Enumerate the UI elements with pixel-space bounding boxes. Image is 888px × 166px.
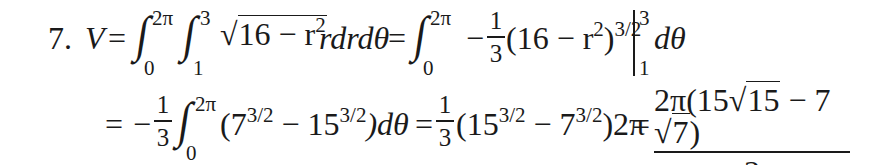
radicand: 16 − r [239,16,316,52]
term-15: (15 [456,106,499,142]
numerator: 1 [490,8,503,33]
radicand: 7 [672,113,690,150]
exponent: 3/2 [615,17,642,41]
close-paren: ) [604,20,615,56]
denominator: 3 [744,156,760,166]
integrand-expression: (73/2 − 153/2)dθ [220,108,409,140]
numerator: 1 [439,92,452,117]
final-result-fraction: 2π(15√15 − 7√7) 3 [654,84,850,165]
equals-sign: = [632,108,650,140]
exponent: 2 [593,17,604,41]
integral-lower-limit: 0 [144,58,155,79]
integral-sign: ∫ [180,9,199,59]
term-15: − 15 [274,106,340,142]
numerator-suffix: ) [690,114,701,150]
antiderivative-base: (16 − r [506,20,593,56]
denominator: 3 [157,125,170,150]
radical-sign: √ [220,16,238,52]
radicand: 15 [746,81,780,118]
radical-sign: √ [729,82,747,118]
integral-lower-limit: 0 [423,58,434,79]
fraction-bar [154,120,172,122]
product-expression: (153/2 − 73/2)2π [456,108,645,140]
term-7: (7 [220,106,247,142]
close-paren-dtheta: )dθ [366,106,408,142]
equals-sign: = [105,108,123,140]
integral-upper-limit: 2π [195,94,216,115]
denominator: 3 [490,41,503,66]
integral-sign: ∫ [175,95,194,145]
fraction-bar [487,36,505,38]
exponent: 3/2 [247,103,274,127]
volume-variable: V [85,22,105,54]
integral-upper-limit: 2π [430,8,451,29]
square-root: √16 − r2 [220,18,327,50]
fraction-one-third: 1 3 [436,92,454,150]
exponent: 3/2 [499,103,526,127]
integral-sign: ∫ [411,9,430,59]
integral-upper-limit: 3 [200,8,211,29]
numerator: 1 [157,92,170,117]
equals-sign: = [388,22,406,54]
fraction-bar [436,120,454,122]
antiderivative: (16 − r2)3/2 [506,22,641,54]
integral-lower-limit: 1 [193,58,204,79]
integral-upper-limit: 2π [152,8,173,29]
integral-sign: ∫ [133,9,152,59]
equals-sign: = [415,108,433,140]
eval-upper-limit: 3 [639,8,650,29]
fraction-one-third: 1 3 [154,92,172,150]
integral-lower-limit: 0 [186,143,197,164]
numerator-prefix: 2π(15 [654,82,729,118]
numerator: 2π(15√15 − 7√7) [654,84,850,148]
fraction-one-third: 1 3 [487,8,505,66]
problem-number: 7. [48,22,72,54]
evaluation-bar [633,10,635,76]
d-theta: dθ [654,22,686,54]
exponent: 3/2 [576,103,603,127]
integrand-differentials: rdrdθ [319,22,389,54]
exponent: 3/2 [340,103,367,127]
fraction-bar [654,151,850,153]
minus-sign: − [466,22,484,54]
term-7: − 7 [526,106,576,142]
eval-lower-limit: 1 [639,58,650,79]
minus-sign: − [133,108,151,140]
equals-sign: = [108,22,126,54]
denominator: 3 [439,125,452,150]
numerator-mid: − 7 [780,82,830,118]
radical-sign: √ [654,114,672,150]
